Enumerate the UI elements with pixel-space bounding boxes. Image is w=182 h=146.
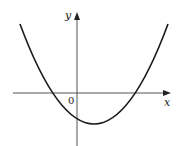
x-axis: [13, 90, 171, 96]
y-axis: [74, 12, 80, 146]
y-axis-arrow-icon: [74, 12, 80, 20]
y-axis-label: y: [64, 9, 72, 22]
parabola-curve: [20, 24, 168, 124]
origin-label: 0: [68, 95, 74, 106]
parabola-graph: y x 0: [0, 0, 182, 146]
x-axis-label: x: [164, 96, 171, 109]
